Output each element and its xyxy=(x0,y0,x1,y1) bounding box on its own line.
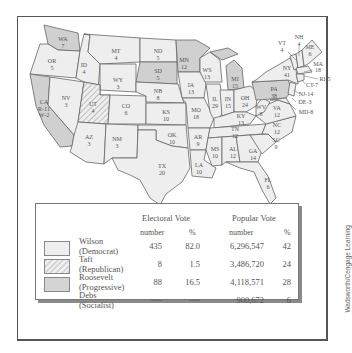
svg-text:RI-5: RI-5 xyxy=(320,76,331,82)
svg-text:NH4: NH4 xyxy=(295,34,304,47)
svg-text:IN15: IN15 xyxy=(225,96,232,109)
svg-text:DE-3: DE-3 xyxy=(299,99,312,105)
pv-pct: 24 xyxy=(274,259,291,269)
state-ma xyxy=(296,66,312,74)
roosevelt-swatch xyxy=(44,277,70,292)
svg-text:CAR-11W-2: CAR-11W-2 xyxy=(38,99,50,118)
svg-text:MD-8: MD-8 xyxy=(299,109,314,115)
ev-pct: 16.5 xyxy=(170,277,200,287)
pv-pct: 6 xyxy=(274,295,291,305)
svg-text:KS10: KS10 xyxy=(162,109,170,122)
popular-vote-header: Popular Vote xyxy=(232,213,276,223)
ev-pct: ---- xyxy=(170,295,200,305)
pv-pct: 42 xyxy=(274,241,291,251)
state-fl xyxy=(226,162,276,204)
svg-text:MA18: MA18 xyxy=(313,61,323,73)
ev-pct: 1.5 xyxy=(170,259,200,269)
ev-pct-label: % xyxy=(189,228,196,237)
state-ny xyxy=(252,58,298,84)
svg-text:IL29: IL29 xyxy=(212,96,218,109)
pv-number: 900,672 xyxy=(216,295,264,305)
pv-number-label: number xyxy=(229,228,253,237)
results-legend-table: Electoral Vote Popular Vote number % num… xyxy=(35,203,299,300)
ev-pct: 82.0 xyxy=(170,241,200,251)
pv-pct-label: % xyxy=(284,228,291,237)
pv-pct: 28 xyxy=(274,277,291,287)
ev-number: 435 xyxy=(132,241,162,251)
pv-number: 4,118,571 xyxy=(216,277,264,287)
ev-number: 8 xyxy=(132,259,162,269)
svg-text:CT-7: CT-7 xyxy=(306,82,318,88)
image-credit: Wadsworth/Cengage Learning xyxy=(344,225,351,313)
legend-row-debs: Debs(Socialist) ---- ---- 900,672 6 xyxy=(36,291,298,313)
ev-number-label: number xyxy=(140,228,164,237)
pv-number: 6,296,547 xyxy=(216,241,264,251)
party-name: (Socialist) xyxy=(79,301,114,311)
ev-number: ---- xyxy=(132,295,162,305)
wilson-swatch xyxy=(44,241,70,256)
pv-number: 3,486,720 xyxy=(216,259,264,269)
svg-text:NJ-14: NJ-14 xyxy=(299,91,314,97)
taft-swatch xyxy=(44,259,70,274)
svg-text:IA13: IA13 xyxy=(188,82,195,95)
ev-number: 88 xyxy=(132,277,162,287)
electoral-vote-header: Electoral Vote xyxy=(142,213,190,223)
svg-text:NC12: NC12 xyxy=(273,122,281,135)
svg-text:VT4: VT4 xyxy=(278,40,286,53)
svg-text:MI15: MI15 xyxy=(231,76,238,89)
